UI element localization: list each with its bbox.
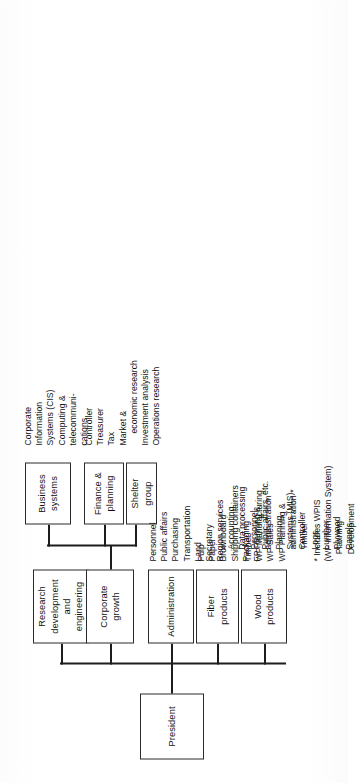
list-item: Treasurer (95, 360, 106, 445)
list-item: WP Manufacturing (254, 489, 265, 561)
node-president-label: President (166, 706, 178, 746)
footnote: * Includes WPIS (WP Information System) … (312, 465, 357, 561)
list-item: Pulp (196, 485, 207, 561)
node-administration[interactable]: Administration (148, 569, 194, 643)
connector-president-trunk (171, 663, 173, 693)
connector-stub-finance-planning (104, 524, 106, 546)
list-item: Controller (84, 360, 95, 445)
node-finance-planning[interactable]: Finance & planning (84, 462, 124, 524)
list-business-systems: CorporateInformationSystems (CIS)Computi… (23, 389, 90, 445)
node-fiber-products[interactable]: Fiber products (196, 569, 239, 643)
list-item: administration * (288, 489, 299, 561)
node-wood-products-label: Wood products (252, 588, 277, 624)
connector-stub-research (61, 643, 63, 664)
connector-main-spine (60, 662, 286, 664)
list-item: economic research (129, 360, 140, 445)
connector-stub-fiber (217, 643, 219, 664)
connector-stub-admin (171, 643, 173, 664)
connector-growth-spine (47, 544, 137, 546)
node-fiber-products-label: Fiber products (205, 588, 230, 624)
list-item: WP Planning & (277, 489, 288, 561)
list-item: WP Sales (265, 489, 276, 561)
list-item: Brownboard (218, 485, 229, 561)
node-president[interactable]: President (140, 693, 204, 759)
list-item: Computing & (57, 389, 68, 445)
list-item: Public affairs (159, 480, 170, 561)
node-administration-label: Administration (165, 576, 177, 636)
node-business-systems[interactable]: Business systems (25, 462, 71, 524)
connector-growth-out (110, 545, 112, 569)
list-item: Shipping containers (230, 485, 241, 561)
node-research[interactable]: Research development and engineering (33, 569, 89, 643)
list-finance-planning: ControllerTreasurerTaxMarket &economic r… (84, 360, 162, 445)
list-item: Market & (118, 360, 129, 445)
node-corporate-growth-label: Corporate growth (98, 585, 123, 627)
connector-stub-growth (110, 643, 112, 664)
list-item: Timber (243, 489, 254, 561)
node-corporate-growth[interactable]: Corporate growth (86, 569, 134, 643)
list-item: Transportation (182, 480, 193, 561)
connector-stub-wood (264, 643, 266, 664)
list-item: Information (34, 389, 45, 445)
list-item: Timber (299, 489, 310, 561)
node-wood-products[interactable]: Wood products (241, 569, 287, 643)
list-item: Corporate (23, 389, 34, 445)
connector-stub-shelter-group (135, 524, 137, 546)
list-item: Paper (207, 485, 218, 561)
node-research-label: Research development and engineering (36, 579, 85, 633)
list-item: Systems (CIS) (45, 389, 56, 445)
list-item: Personnel (148, 480, 159, 561)
node-business-systems-label: Business systems (36, 474, 61, 513)
list-item: Investment analysis (140, 360, 151, 445)
list-item: telecommuni- (68, 389, 79, 445)
node-finance-planning-label: Finance & planning (92, 472, 117, 515)
list-item: Purchasing (170, 480, 181, 561)
list-item: Tax (106, 360, 117, 445)
connector-stub-business-systems (48, 524, 50, 546)
list-item: Operations research (151, 360, 162, 445)
